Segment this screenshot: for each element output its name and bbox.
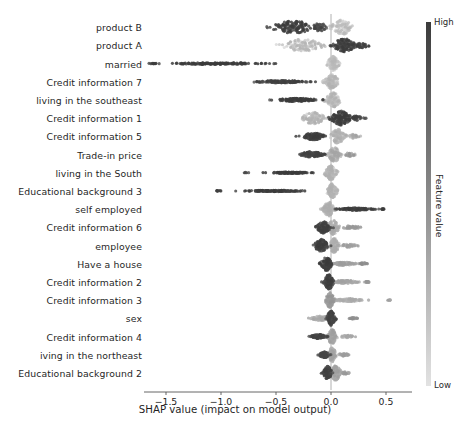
beeswarm-row — [243, 164, 340, 181]
beeswarm-row — [268, 91, 341, 108]
y-axis-tick-label: employee — [95, 240, 142, 251]
beeswarm-row — [294, 128, 362, 145]
y-axis-tick-label: Educational background 3 — [18, 185, 142, 196]
y-axis-tick-label: Credit information 1 — [47, 113, 142, 124]
y-axis-tick-label: Educational background 2 — [18, 367, 142, 378]
y-axis-tick-label: Credit information 5 — [47, 131, 142, 142]
beeswarm-row — [147, 55, 341, 72]
beeswarm-row — [301, 109, 368, 126]
colorbar-low-label: Low — [434, 380, 451, 390]
y-axis-tick-label: Credit information 3 — [47, 295, 142, 306]
beeswarm-row — [316, 346, 350, 363]
y-axis-tick-label: sex — [126, 313, 142, 324]
beeswarm-row — [312, 237, 360, 254]
y-axis-tick-label: Credit information 7 — [47, 76, 142, 87]
y-axis-tick-label: product A — [96, 40, 142, 51]
beeswarm-row — [324, 291, 392, 308]
y-axis-tick-label: Credit information 6 — [47, 222, 142, 233]
beeswarm-row — [314, 219, 362, 236]
beeswarm-row — [265, 18, 354, 35]
beeswarm-row — [318, 256, 369, 271]
y-axis-tick-label: married — [105, 58, 142, 69]
y-axis-tick-label: living in the southeast — [36, 94, 142, 105]
beeswarm-row — [307, 310, 359, 327]
beeswarm-row — [319, 201, 386, 218]
beeswarm-row — [320, 364, 351, 381]
colorbar-high-label: High — [434, 17, 454, 27]
beeswarm-row — [320, 273, 371, 290]
y-axis-tick-label: living in the South — [55, 167, 142, 178]
beeswarm-row — [298, 146, 357, 162]
shap-summary-figure: product Bproduct AmarriedCredit informat… — [0, 0, 470, 432]
feature-value-colorbar — [426, 22, 431, 386]
y-axis-feature-labels: product Bproduct AmarriedCredit informat… — [0, 0, 148, 400]
x-axis-title: SHAP value (impact on model output) — [0, 404, 470, 415]
y-axis-tick-label: Trade-in price — [77, 149, 142, 160]
beeswarm-row — [253, 73, 340, 90]
beeswarm-row — [215, 182, 339, 199]
y-axis-tick-label: Credit information 4 — [47, 331, 142, 342]
y-axis-tick-label: self employed — [75, 204, 142, 215]
y-axis-tick-label: Credit information 2 — [47, 276, 142, 287]
y-axis-tick-label: iving in the northeast — [40, 349, 142, 360]
beeswarm-row — [307, 328, 357, 345]
beeswarm-row — [275, 37, 371, 53]
y-axis-tick-label: Have a house — [77, 258, 142, 269]
y-axis-tick-label: product B — [96, 22, 142, 33]
colorbar-title: Feature value — [434, 174, 445, 237]
